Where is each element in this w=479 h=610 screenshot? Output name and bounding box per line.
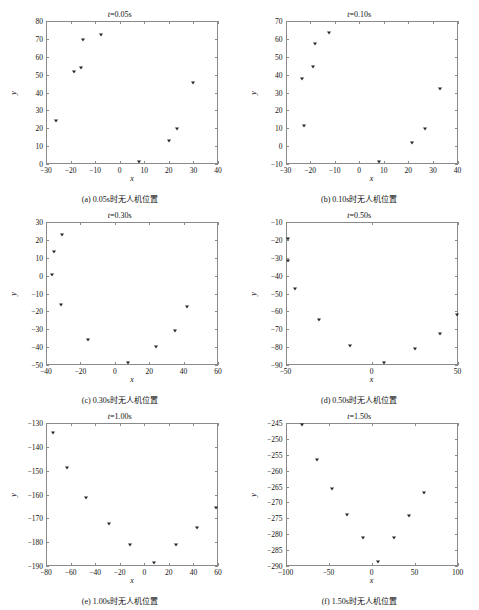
data-point-marker — [65, 466, 69, 469]
data-point-marker — [376, 560, 380, 563]
x-tick-label: 20 — [165, 568, 173, 577]
data-point-marker — [422, 491, 426, 494]
data-point-marker — [410, 141, 414, 144]
x-tick-mark — [144, 563, 145, 566]
panel-caption: (a) 0.05s时无人机位置 — [0, 193, 240, 204]
data-point-marker — [191, 82, 195, 85]
y-tick-label: −265 — [267, 482, 282, 491]
x-tick-label: 20 — [405, 166, 413, 175]
y-axis-label: y — [9, 91, 18, 95]
y-tick-mark — [286, 311, 289, 312]
x-tick-mark-top — [458, 423, 459, 426]
x-tick-label: 0 — [113, 367, 117, 376]
x-tick-mark-top — [120, 423, 121, 426]
data-point-marker — [317, 318, 321, 321]
x-tick-label: 30 — [190, 166, 198, 175]
y-tick-mark — [286, 294, 289, 295]
y-tick-mark — [286, 110, 289, 111]
x-tick-label: 0 — [357, 166, 361, 175]
axes-box — [286, 423, 458, 566]
y-tick-mark — [286, 258, 289, 259]
y-tick-label: −20 — [31, 307, 43, 316]
y-tick-label: 60 — [275, 34, 283, 43]
x-tick-label: 50 — [411, 568, 419, 577]
y-tick-mark-right — [215, 276, 218, 277]
x-tick-mark-top — [95, 21, 96, 24]
y-tick-mark — [286, 423, 289, 424]
data-point-marker — [52, 251, 56, 254]
plot-area: −100−50050100−290−285−280−275−270−265−26… — [286, 423, 458, 566]
x-tick-mark-top — [193, 21, 194, 24]
y-tick-mark-right — [215, 495, 218, 496]
data-point-marker — [99, 33, 103, 36]
x-tick-label: 10 — [380, 166, 388, 175]
y-tick-mark-right — [455, 423, 458, 424]
data-point-marker — [154, 346, 158, 349]
y-tick-mark-right — [455, 566, 458, 567]
y-tick-mark — [46, 222, 49, 223]
x-tick-mark — [169, 563, 170, 566]
x-tick-mark — [95, 161, 96, 164]
x-tick-mark-top — [80, 222, 81, 225]
y-tick-mark-right — [215, 566, 218, 567]
data-point-marker — [60, 234, 64, 237]
title-value: =0.10s — [350, 10, 372, 19]
y-tick-mark-right — [455, 258, 458, 259]
data-point-marker — [214, 507, 218, 510]
data-point-marker — [382, 361, 386, 364]
y-tick-mark — [46, 146, 49, 147]
x-tick-mark — [218, 161, 219, 164]
x-tick-label: 60 — [214, 367, 222, 376]
y-tick-mark — [46, 329, 49, 330]
y-tick-mark — [46, 347, 49, 348]
y-tick-mark — [46, 495, 49, 496]
y-tick-mark-right — [455, 455, 458, 456]
y-tick-label: 20 — [36, 235, 44, 244]
plot-area: −40−200204060−50−40−30−20−100102030xy — [46, 222, 218, 365]
y-tick-mark-right — [455, 276, 458, 277]
data-point-marker — [311, 65, 315, 68]
y-tick-mark — [286, 128, 289, 129]
title-value: =1.00s — [110, 412, 132, 421]
data-point-marker — [173, 330, 177, 333]
x-tick-mark — [184, 362, 185, 365]
y-tick-label: −10 — [31, 289, 43, 298]
x-tick-mark — [95, 563, 96, 566]
data-point-marker — [455, 313, 459, 316]
y-tick-label: 50 — [275, 52, 283, 61]
y-tick-mark-right — [455, 57, 458, 58]
y-tick-mark — [286, 518, 289, 519]
figure-page: t=0.05s−30−20−10010203040010203040506070… — [0, 0, 479, 610]
y-tick-label: 0 — [39, 271, 43, 280]
panel-f: t=1.50s−100−50050100−290−285−280−275−270… — [240, 408, 479, 609]
y-tick-mark-right — [215, 347, 218, 348]
x-tick-label: −10 — [89, 166, 101, 175]
x-tick-mark — [193, 161, 194, 164]
y-tick-label: 20 — [275, 106, 283, 115]
y-tick-mark — [46, 566, 49, 567]
y-axis-label: y — [249, 493, 258, 497]
x-tick-mark — [310, 161, 311, 164]
data-point-marker — [438, 88, 442, 91]
x-tick-mark-top — [184, 222, 185, 225]
y-tick-mark-right — [455, 518, 458, 519]
y-tick-mark-right — [215, 258, 218, 259]
y-tick-label: −290 — [267, 562, 282, 571]
x-tick-label: 0 — [142, 568, 146, 577]
y-tick-mark — [286, 222, 289, 223]
x-tick-label: −40 — [89, 568, 101, 577]
data-point-marker — [81, 38, 85, 41]
y-tick-mark-right — [455, 365, 458, 366]
panel-caption: (f) 1.50s时无人机位置 — [240, 595, 479, 606]
x-axis-label: x — [370, 375, 374, 384]
x-tick-label: 40 — [214, 166, 222, 175]
y-tick-mark-right — [455, 347, 458, 348]
y-tick-mark-right — [215, 240, 218, 241]
x-tick-mark-top — [218, 222, 219, 225]
plot-area: −30−20−10010203040−10010203040506070xy — [286, 21, 458, 164]
x-tick-mark — [218, 563, 219, 566]
y-tick-label: −280 — [267, 530, 282, 539]
x-tick-mark-top — [71, 21, 72, 24]
x-tick-mark — [458, 362, 459, 365]
y-tick-label: −90 — [271, 361, 283, 370]
